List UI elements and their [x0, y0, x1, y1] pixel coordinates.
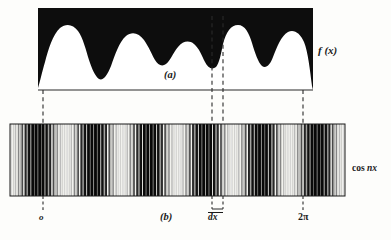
cos-nx-label: cos nx	[352, 164, 377, 174]
figure-svg	[0, 0, 391, 240]
panel-b-group	[10, 124, 345, 196]
dx-brace	[212, 207, 223, 209]
twopi-tick-label: 2π	[298, 212, 308, 222]
dx-tick-label: dx	[208, 212, 223, 223]
cos-nx-prefix: cos	[352, 163, 367, 173]
origin-tick-label: o	[39, 213, 44, 222]
panel-b-label: (b)	[160, 212, 172, 223]
dx-text: dx	[208, 212, 218, 222]
fx-label: f (x)	[318, 45, 337, 56]
cos-nx-variable: nx	[367, 163, 377, 173]
bottom-ticks-group	[43, 196, 303, 210]
panel-a-label: (a)	[164, 70, 176, 81]
figure-container: f (x) cos nx (a) (b) o dx 2π	[0, 0, 391, 240]
